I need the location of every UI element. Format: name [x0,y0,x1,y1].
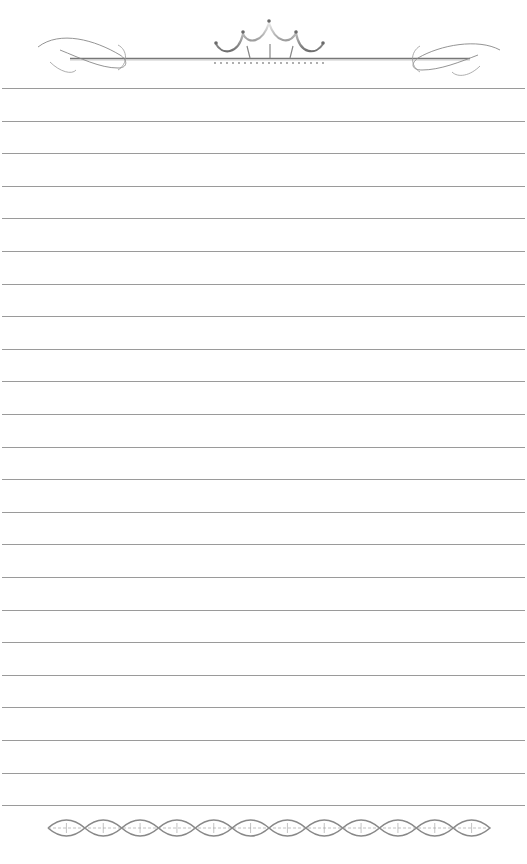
ruled-lines [0,0,527,864]
ruled-line [2,642,525,643]
ruled-line [2,381,525,382]
ruled-line [2,805,525,806]
ruled-line [2,121,525,122]
ruled-line [2,218,525,219]
ruled-line [2,186,525,187]
ruled-line [2,284,525,285]
ruled-line [2,316,525,317]
ruled-line [2,773,525,774]
ruled-line [2,610,525,611]
ruled-line [2,512,525,513]
ruled-line [2,675,525,676]
ruled-line [2,349,525,350]
ruled-line [2,251,525,252]
diamond-chain-footer-ornament-icon [0,808,527,858]
ruled-line [2,447,525,448]
ruled-line [2,707,525,708]
ruled-line [2,153,525,154]
ruled-line [2,88,525,89]
ruled-line [2,544,525,545]
ruled-line [2,740,525,741]
ruled-line [2,479,525,480]
ruled-line [2,577,525,578]
ruled-line [2,414,525,415]
